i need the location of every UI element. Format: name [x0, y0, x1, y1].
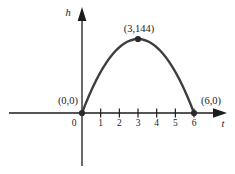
figure: 0123456ht(0,0)(3,144)(6,0): [0, 0, 235, 174]
data-point-dot: [79, 110, 85, 116]
t-axis-label: t: [222, 118, 226, 129]
tick-label: 6: [192, 118, 197, 128]
point-label: (0,0): [58, 95, 79, 107]
graph-canvas: 0123456ht(0,0)(3,144)(6,0): [0, 0, 235, 174]
h-axis-label: h: [65, 7, 70, 18]
h-axis-arrow-icon: [78, 7, 87, 21]
tick-label: 2: [117, 118, 122, 128]
data-point-dot: [135, 36, 141, 42]
t-axis-arrow-icon: [213, 108, 227, 117]
point-label: (3,144): [124, 23, 155, 35]
point-label: (6,0): [201, 95, 222, 107]
parabola-curve: [82, 39, 194, 113]
tick-label: 4: [154, 118, 159, 128]
tick-label: 5: [173, 118, 178, 128]
tick-label: 0: [72, 118, 77, 128]
tick-label: 1: [98, 118, 103, 128]
tick-label: 3: [136, 118, 141, 128]
data-point-dot: [191, 110, 197, 116]
